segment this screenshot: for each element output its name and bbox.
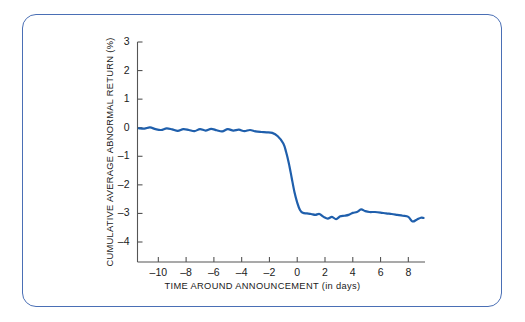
y-axis-tick-label: 1	[108, 92, 130, 104]
x-axis-tick-label: 4	[340, 266, 366, 278]
x-axis-tick-label: –4	[229, 266, 255, 278]
y-axis-tick-label: 3	[108, 35, 130, 47]
x-axis-tick-label: –6	[201, 266, 227, 278]
y-axis-tick-label: 0	[108, 121, 130, 133]
x-axis-tick-label: –8	[173, 266, 199, 278]
x-axis-tick-label: –2	[256, 266, 282, 278]
x-axis-tick-label: 6	[368, 266, 394, 278]
x-axis-tick-label: 0	[284, 266, 310, 278]
x-axis-title: TIME AROUND ANNOUNCEMENT (in days)	[0, 281, 525, 291]
y-axis-tick-label: –4	[108, 235, 130, 247]
y-axis-tick-label: –2	[108, 178, 130, 190]
x-axis-tick-label: 8	[395, 266, 421, 278]
y-axis-tick-label: –1	[108, 149, 130, 161]
y-axis-tick-label: 2	[108, 64, 130, 76]
data-series-line	[139, 127, 424, 221]
x-axis-tick-label: 2	[312, 266, 338, 278]
y-axis-tick-label: –3	[108, 206, 130, 218]
x-axis-tick-label: –10	[145, 266, 171, 278]
